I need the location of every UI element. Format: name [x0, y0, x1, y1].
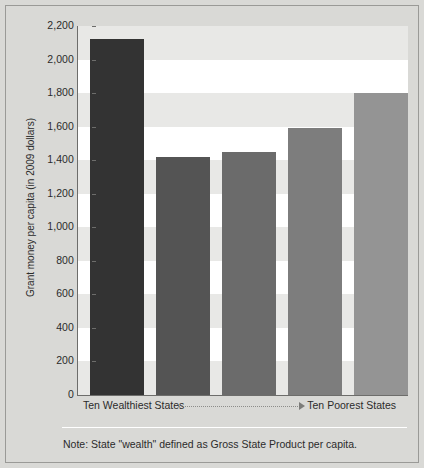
- chart-note: Note: State "wealth" defined as Gross St…: [63, 438, 357, 450]
- y-tick-mark: [92, 160, 96, 161]
- y-tick-label: 0: [28, 389, 74, 400]
- y-tick-mark: [92, 26, 96, 27]
- x-axis-right-label: Ten Poorest States: [307, 399, 396, 411]
- y-tick-label: 400: [28, 322, 74, 333]
- y-tick-mark: [92, 361, 96, 362]
- y-tick-mark: [92, 127, 96, 128]
- y-tick-label: 1,800: [28, 87, 74, 98]
- bar-2: [156, 157, 210, 395]
- x-axis-connector-line: [178, 406, 300, 408]
- y-tick-label: 2,200: [28, 20, 74, 31]
- y-tick-mark: [92, 261, 96, 262]
- plot-area: [78, 26, 408, 395]
- y-tick-mark: [92, 93, 96, 94]
- figure-container: 2,2002,0001,8001,6001,4001,2001,00080060…: [0, 0, 424, 468]
- bar-5: [354, 93, 408, 395]
- y-axis-line: [77, 26, 78, 396]
- y-tick-mark: [92, 294, 96, 295]
- y-tick-label: 2,000: [28, 54, 74, 65]
- bar-1: [90, 39, 144, 395]
- y-tick-mark: [92, 60, 96, 61]
- bar-4: [288, 128, 342, 395]
- figure-border: 2,2002,0001,8001,6001,4001,2001,00080060…: [5, 5, 419, 463]
- x-axis-line: [77, 395, 408, 396]
- y-tick-mark: [92, 227, 96, 228]
- arrow-right-icon: [299, 402, 305, 410]
- y-tick-mark: [92, 328, 96, 329]
- y-tick-label: 200: [28, 355, 74, 366]
- note-divider: [62, 427, 407, 428]
- x-axis-left-label: Ten Wealthiest States: [83, 399, 184, 411]
- y-axis-title: Grant money per capita (in 2009 dollars): [25, 118, 36, 298]
- bar-3: [222, 152, 276, 395]
- y-tick-mark: [92, 395, 96, 396]
- y-tick-mark: [92, 194, 96, 195]
